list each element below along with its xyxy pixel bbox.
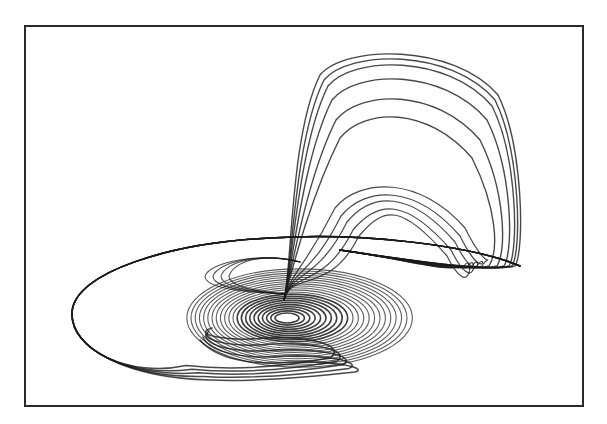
arch-loop: [284, 187, 488, 300]
attractor-plot: [0, 0, 607, 424]
spiral-center-hole: [278, 315, 296, 322]
arch-loop: [284, 201, 478, 300]
arch-loop: [284, 65, 515, 300]
